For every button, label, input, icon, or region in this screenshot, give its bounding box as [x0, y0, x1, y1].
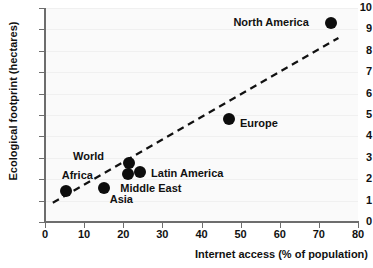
- x-tick-label-10: 10: [69, 229, 99, 240]
- x-tick-label-30: 30: [147, 229, 177, 240]
- gridline: [45, 136, 358, 137]
- y-tick-label-0: 0: [334, 216, 372, 227]
- point-label: Europe: [240, 117, 278, 129]
- point-label: Africa: [62, 169, 93, 181]
- y-tick-mark: [39, 115, 45, 116]
- y-tick-mark: [39, 179, 45, 180]
- y-tick-label-10: 10: [334, 2, 372, 13]
- y-tick-mark: [39, 8, 45, 9]
- x-axis-title: Internet access (% of population): [130, 248, 368, 260]
- point-label: World: [73, 150, 104, 162]
- x-tick-label-80: 80: [343, 229, 373, 240]
- x-tick-label-40: 40: [187, 229, 217, 240]
- y-tick-mark: [39, 94, 45, 95]
- data-point[interactable]: [325, 17, 337, 29]
- y-tick-label-6: 6: [334, 88, 372, 99]
- x-tick-label-70: 70: [304, 229, 334, 240]
- data-point[interactable]: [134, 166, 146, 178]
- y-tick-label-8: 8: [334, 45, 372, 56]
- x-tick-label-50: 50: [226, 229, 256, 240]
- y-tick-label-9: 9: [334, 23, 372, 34]
- y-tick-mark: [39, 136, 45, 137]
- y-tick-mark: [39, 29, 45, 30]
- data-point[interactable]: [223, 113, 235, 125]
- point-label: Asia: [110, 193, 133, 205]
- gridline: [45, 29, 358, 30]
- data-point[interactable]: [60, 185, 72, 197]
- y-tick-mark: [39, 158, 45, 159]
- gridline: [45, 8, 358, 9]
- gridline: [45, 201, 358, 202]
- data-point[interactable]: [98, 182, 110, 194]
- y-tick-label-1: 1: [334, 195, 372, 206]
- x-tick-label-60: 60: [265, 229, 295, 240]
- gridline: [45, 94, 358, 95]
- gridline: [45, 51, 358, 52]
- point-label: North America: [233, 16, 308, 28]
- y-tick-label-3: 3: [334, 152, 372, 163]
- gridline: [45, 115, 358, 116]
- y-tick-mark: [39, 201, 45, 202]
- x-tick-label-0: 0: [30, 229, 60, 240]
- point-label: Middle East: [120, 182, 181, 194]
- x-tick-label-20: 20: [108, 229, 138, 240]
- y-tick-label-5: 5: [334, 109, 372, 120]
- gridline: [45, 72, 358, 73]
- y-tick-mark: [39, 72, 45, 73]
- y-tick-label-7: 7: [334, 66, 372, 77]
- data-point[interactable]: [122, 168, 134, 180]
- y-tick-mark: [39, 51, 45, 52]
- y-tick-label-2: 2: [334, 173, 372, 184]
- point-label: Latin America: [151, 167, 223, 179]
- y-axis-title: Ecological footprint (hectares): [7, 0, 19, 206]
- y-tick-label-4: 4: [334, 130, 372, 141]
